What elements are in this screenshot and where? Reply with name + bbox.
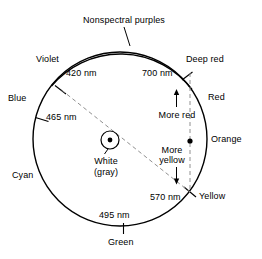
- nonspectral-purples-label: Nonspectral purples: [56, 15, 192, 25]
- white-point-label-line2: (gray): [78, 167, 134, 177]
- more-yellow-label-line1: More: [162, 145, 183, 155]
- more-yellow-arrow: [174, 167, 179, 185]
- yellow-label: Yellow: [199, 191, 225, 201]
- more-yellow-label: Moreyellow: [148, 145, 196, 165]
- orange-label: Orange: [211, 134, 242, 144]
- blue-label: Blue: [8, 93, 26, 103]
- deep-red-wavelength-label: 700 nm: [142, 68, 173, 78]
- white-point-label-line1: White: [78, 156, 134, 166]
- color-circle-graphic: [0, 0, 262, 259]
- nonspectral-purples-leader: [124, 27, 130, 46]
- cyan-label: Cyan: [12, 170, 33, 180]
- deep-red-label: Deep red: [186, 54, 224, 64]
- yellow-wavelength-label: 570 nm: [150, 192, 181, 202]
- green-label: Green: [108, 237, 134, 247]
- sample-point-dot: [187, 138, 192, 143]
- violet-label: Violet: [36, 54, 59, 64]
- color-circle-diagram: Nonspectral purples Violet 420 nm Blue 4…: [0, 0, 262, 259]
- violet-wavelength-label: 420 nm: [66, 68, 97, 78]
- white-point-leader: [105, 149, 109, 154]
- deep-red-tick: [182, 72, 193, 80]
- green-wavelength-label: 495 nm: [99, 210, 130, 220]
- white-point-dot: [108, 138, 113, 143]
- more-red-label: More red: [146, 110, 208, 120]
- more-red-arrow: [174, 89, 179, 107]
- blue-wavelength-label: 465 nm: [46, 112, 77, 122]
- more-yellow-label-line2: yellow: [159, 155, 185, 165]
- red-label: Red: [208, 92, 225, 102]
